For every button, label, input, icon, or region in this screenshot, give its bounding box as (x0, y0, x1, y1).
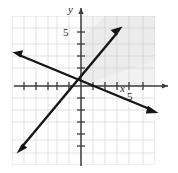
x-tick-label-5: 5 (127, 90, 133, 102)
graph-canvas: x y 5 5 (0, 0, 178, 173)
y-axis-label: y (67, 3, 73, 15)
coordinate-graph-figure: x y 5 5 (0, 0, 178, 173)
y-tick-label-5: 5 (63, 26, 69, 38)
x-axis-label: x (119, 82, 125, 94)
shaded-region (81, 16, 155, 86)
